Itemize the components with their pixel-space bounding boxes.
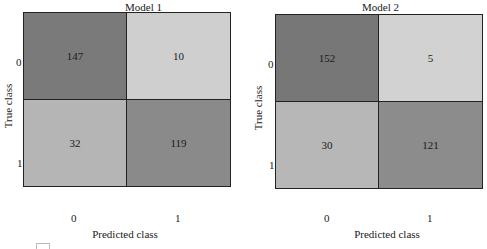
y-axis-label: True class	[252, 78, 264, 138]
y-tick-1: 1	[17, 157, 23, 169]
cropped-caption-fragment	[36, 243, 50, 249]
x-tick-0: 0	[71, 212, 77, 224]
cell-true0-pred0: 147	[24, 13, 127, 100]
cell-true1-pred0: 32	[24, 100, 127, 187]
cell-true0-pred1: 10	[127, 13, 230, 100]
x-axis-label: Predicted class	[342, 228, 432, 240]
y-tick-0: 0	[268, 58, 274, 70]
cell-true1-pred1: 121	[379, 102, 482, 189]
x-tick-1: 1	[175, 212, 181, 224]
y-axis-label: True class	[2, 76, 14, 136]
cell-true0-pred1: 5	[379, 15, 482, 102]
y-tick-0: 0	[16, 56, 22, 68]
confusion-matrix-model-2: Model 2 152 5 30 121 0 1 0 1 True class …	[242, 0, 487, 249]
cell-true1-pred0: 30	[276, 102, 379, 189]
x-tick-1: 1	[427, 212, 433, 224]
x-tick-0: 0	[324, 212, 330, 224]
matrix-grid: 147 10 32 119	[23, 12, 231, 187]
confusion-matrix-model-1: Model 1 147 10 32 119 0 1 0 1 True class…	[0, 0, 245, 249]
x-axis-label: Predicted class	[80, 228, 170, 240]
cell-true0-pred0: 152	[276, 15, 379, 102]
chart-title: Model 2	[242, 1, 487, 13]
matrix-grid: 152 5 30 121	[275, 14, 483, 189]
y-tick-1: 1	[269, 159, 275, 171]
cell-true1-pred1: 119	[127, 100, 230, 187]
